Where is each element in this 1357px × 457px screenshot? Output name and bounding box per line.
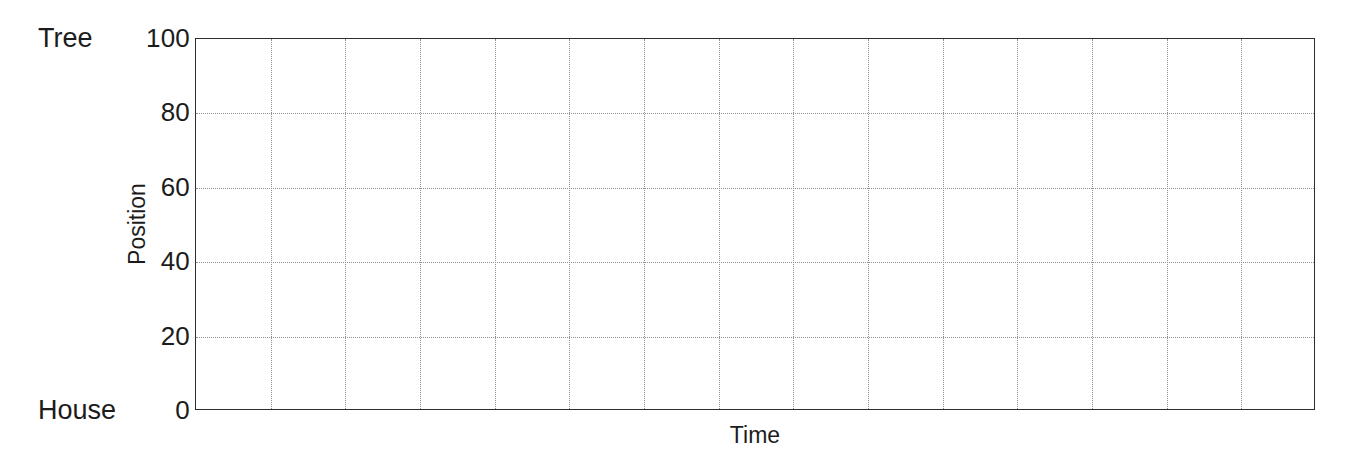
y-tick-label-20: 20 xyxy=(70,323,190,349)
gridline-horizontal xyxy=(196,113,1314,114)
gridline-vertical xyxy=(345,39,346,409)
gridline-horizontal xyxy=(196,262,1314,263)
gridline-vertical xyxy=(1167,39,1168,409)
endpoint-label-tree: Tree xyxy=(38,25,168,52)
gridline-vertical xyxy=(1092,39,1093,409)
y-axis-title: Position xyxy=(124,144,150,304)
x-axis-title: Time xyxy=(195,424,1315,447)
endpoint-label-house: House xyxy=(38,397,168,424)
gridline-vertical xyxy=(495,39,496,409)
gridline-vertical xyxy=(1017,39,1018,409)
gridlines xyxy=(196,39,1314,409)
gridline-vertical xyxy=(644,39,645,409)
position-vs-time-chart: 100 80 60 40 20 0 Tree House Time Positi… xyxy=(0,0,1357,457)
gridline-vertical xyxy=(943,39,944,409)
gridline-vertical xyxy=(793,39,794,409)
gridline-vertical xyxy=(719,39,720,409)
gridline-vertical xyxy=(868,39,869,409)
gridline-vertical xyxy=(1241,39,1242,409)
gridline-vertical xyxy=(569,39,570,409)
plot-area xyxy=(195,38,1315,410)
gridline-vertical xyxy=(271,39,272,409)
gridline-horizontal xyxy=(196,337,1314,338)
gridline-vertical xyxy=(420,39,421,409)
gridline-horizontal xyxy=(196,188,1314,189)
y-tick-label-80: 80 xyxy=(70,99,190,125)
